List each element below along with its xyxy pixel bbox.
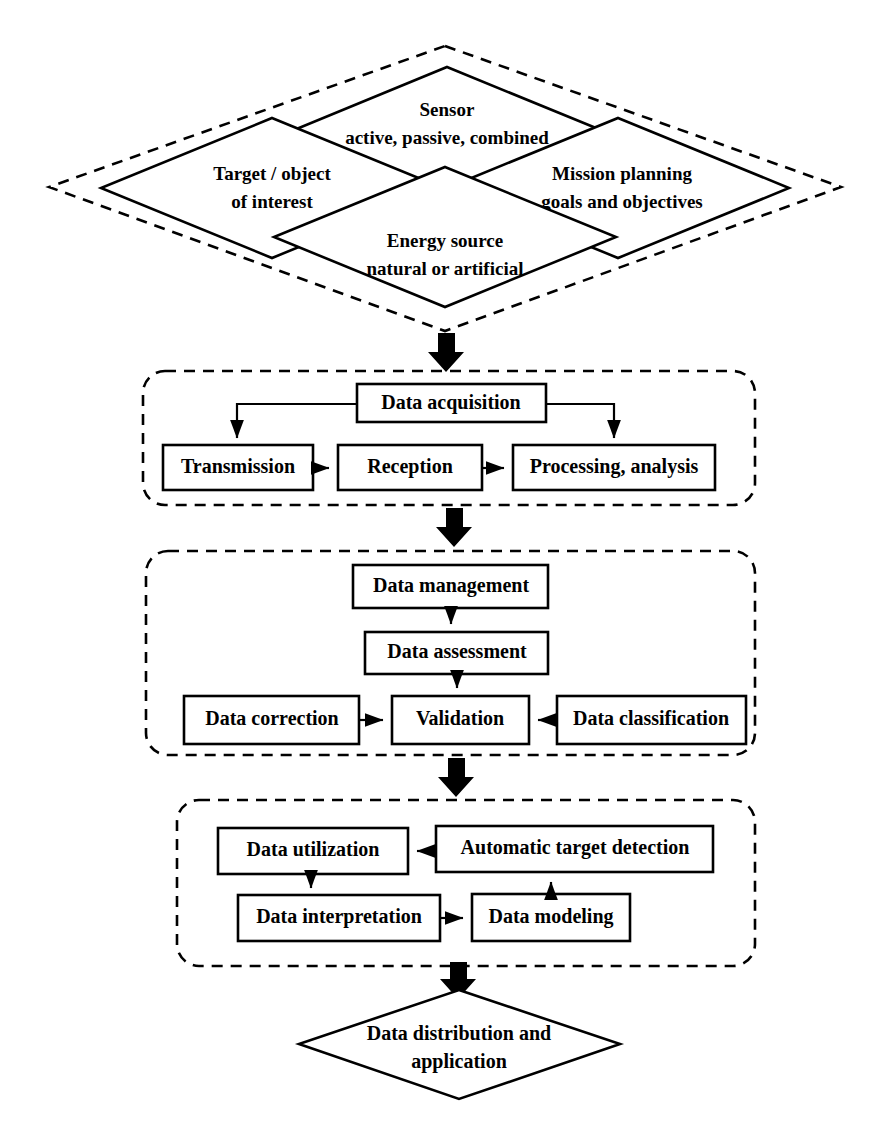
target-label-line2: of interest bbox=[231, 191, 313, 212]
node-validation[interactable]: Validation bbox=[392, 696, 529, 744]
data-modeling-label: Data modeling bbox=[489, 905, 614, 928]
energy-label-line1: Energy source bbox=[387, 230, 503, 251]
flow-arrow-inputs-to-acquisition bbox=[428, 333, 464, 372]
data-distribution-label-line1: Data distribution and bbox=[367, 1022, 552, 1044]
node-data-acquisition[interactable]: Data acquisition bbox=[357, 384, 546, 422]
validation-label: Validation bbox=[416, 707, 504, 729]
node-data-interpretation[interactable]: Data interpretation bbox=[238, 895, 440, 941]
flow-arrow-management-to-exploitation bbox=[438, 758, 474, 797]
node-reception[interactable]: Reception bbox=[338, 445, 482, 490]
diagram-root: Sensor active, passive, combined Target … bbox=[0, 0, 890, 1130]
node-data-management[interactable]: Data management bbox=[353, 565, 548, 608]
automatic-target-detection-label: Automatic target detection bbox=[461, 836, 690, 859]
sensor-label-line1: Sensor bbox=[420, 99, 475, 120]
data-correction-label: Data correction bbox=[205, 707, 338, 729]
reception-label: Reception bbox=[367, 455, 453, 478]
data-utilization-label: Data utilization bbox=[247, 838, 380, 860]
node-data-modeling[interactable]: Data modeling bbox=[472, 894, 630, 941]
connector-acquisition-to-processing bbox=[546, 404, 614, 438]
energy-label-line2: natural or artificial bbox=[367, 258, 524, 279]
node-data-correction[interactable]: Data correction bbox=[184, 696, 359, 744]
mission-label-line2: goals and objectives bbox=[541, 191, 703, 212]
data-assessment-label: Data assessment bbox=[387, 640, 527, 662]
target-label-line1: Target / object bbox=[213, 163, 331, 184]
processing-analysis-label: Processing, analysis bbox=[530, 455, 699, 478]
node-data-classification[interactable]: Data classification bbox=[557, 696, 746, 744]
data-distribution-label-line2: application bbox=[411, 1050, 507, 1073]
node-data-assessment[interactable]: Data assessment bbox=[365, 632, 548, 674]
node-automatic-target-detection[interactable]: Automatic target detection bbox=[436, 826, 713, 872]
connector-acquisition-to-transmission bbox=[237, 404, 357, 438]
stage-inputs: Sensor active, passive, combined Target … bbox=[49, 46, 841, 331]
flow-diagram-canvas: Sensor active, passive, combined Target … bbox=[0, 0, 890, 1130]
stage-exploitation: Data utilization Automatic target detect… bbox=[177, 800, 755, 966]
stage-acquisition: Data acquisition Transmission Reception … bbox=[143, 371, 755, 505]
transmission-label: Transmission bbox=[181, 455, 295, 477]
stage-management: Data management Data assessment Data cor… bbox=[146, 551, 755, 755]
node-data-distribution[interactable]: Data distribution and application bbox=[299, 990, 620, 1099]
node-data-utilization[interactable]: Data utilization bbox=[218, 828, 408, 874]
data-interpretation-label: Data interpretation bbox=[256, 905, 422, 928]
data-distribution-diamond bbox=[299, 990, 620, 1099]
node-transmission[interactable]: Transmission bbox=[163, 445, 313, 490]
flow-arrow-acquisition-to-management bbox=[436, 508, 472, 547]
data-classification-label: Data classification bbox=[573, 707, 729, 729]
stage-output: Data distribution and application bbox=[299, 990, 620, 1099]
node-processing-analysis[interactable]: Processing, analysis bbox=[513, 445, 715, 490]
data-management-label: Data management bbox=[373, 574, 529, 597]
mission-label-line1: Mission planning bbox=[552, 163, 692, 184]
data-acquisition-label: Data acquisition bbox=[381, 391, 520, 414]
sensor-label-line2: active, passive, combined bbox=[345, 127, 549, 148]
